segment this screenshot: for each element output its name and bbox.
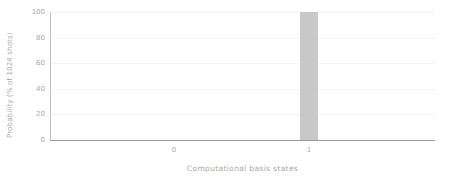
y-tick-label-100: 100 bbox=[0, 8, 45, 16]
y-axis-title-text: Probability (% of 1024 shots) bbox=[6, 32, 14, 138]
gridline-100 bbox=[50, 12, 435, 13]
x-axis-title: Computational basis states bbox=[50, 164, 435, 173]
gridline-20 bbox=[50, 114, 435, 115]
histogram-figure: 100 80 60 40 20 0 0 1 Probability (% of … bbox=[0, 0, 449, 185]
gridline-80 bbox=[50, 38, 435, 39]
y-axis-spine bbox=[50, 12, 51, 140]
plot-area bbox=[50, 12, 435, 140]
gridline-60 bbox=[50, 63, 435, 64]
x-tick-label-1: 1 bbox=[289, 146, 329, 154]
gridline-40 bbox=[50, 89, 435, 90]
bar-state-1[interactable] bbox=[300, 12, 318, 140]
x-axis-spine bbox=[50, 140, 435, 141]
x-tick-label-0: 0 bbox=[154, 146, 194, 154]
